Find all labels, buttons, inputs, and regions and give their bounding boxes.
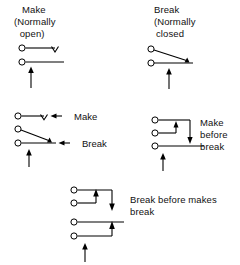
caption-make-normally-open-line3: open) bbox=[17, 28, 45, 40]
actuator-up-arrow bbox=[166, 68, 172, 89]
terminal-circle bbox=[71, 219, 77, 225]
terminal-circle bbox=[15, 126, 21, 132]
caption-make-before-break-line2: before bbox=[200, 129, 228, 141]
make-arrow-long bbox=[187, 120, 192, 144]
callout-arrow-break bbox=[59, 141, 71, 146]
terminal-circle bbox=[19, 59, 25, 65]
contact-arrow-up-1 bbox=[93, 189, 99, 203]
open-contact-v-marker bbox=[41, 115, 48, 120]
break-arrow-short bbox=[174, 121, 179, 133]
caption-break-before-makes-break-line2: break bbox=[130, 206, 154, 218]
caption-make-before-break-line1: Make bbox=[200, 117, 224, 129]
actuator-up-arrow bbox=[28, 67, 34, 89]
callout-arrow-make bbox=[51, 114, 63, 119]
inline-label-make: Make bbox=[74, 111, 97, 122]
actuator-up-arrow bbox=[82, 243, 88, 262]
symbol-break-normally-closed bbox=[140, 40, 240, 90]
contact-arm-diagonal bbox=[21, 130, 50, 141]
contact-arrow-up-2 bbox=[109, 221, 115, 236]
caption-break-normally-closed: Break bbox=[154, 4, 179, 16]
caption-make-before-break-line3: break bbox=[200, 141, 224, 153]
contact-arrow-down-1 bbox=[109, 190, 115, 211]
inline-label-break: Break bbox=[82, 138, 107, 149]
terminal-circle bbox=[71, 200, 77, 206]
terminal-circle bbox=[152, 130, 158, 136]
terminal-circle bbox=[19, 45, 25, 51]
actuator-up-arrow bbox=[26, 149, 32, 167]
caption-make-normally-open: Make bbox=[22, 4, 46, 16]
terminal-circle bbox=[15, 140, 21, 146]
terminal-circle bbox=[15, 113, 21, 119]
terminal-circle bbox=[148, 46, 154, 52]
contact-arm-diagonal bbox=[154, 50, 188, 61]
switch-contact-symbols-diagram: Make (Normally open) Break (Normally clo… bbox=[0, 0, 240, 265]
terminal-circle bbox=[71, 233, 77, 239]
open-contact-v-marker bbox=[52, 47, 59, 53]
terminal-circle bbox=[152, 117, 158, 123]
caption-break-before-makes-break-line1: Break before makes bbox=[130, 194, 217, 206]
symbol-make-normally-open bbox=[0, 40, 120, 90]
caption-break-normally-closed-line2: (Normally bbox=[154, 16, 196, 28]
caption-break-normally-closed-line3: closed bbox=[156, 28, 184, 40]
terminal-circle bbox=[148, 60, 154, 66]
actuator-up-arrow bbox=[160, 153, 166, 171]
terminal-circle bbox=[71, 187, 77, 193]
symbol-make-before-break bbox=[146, 112, 240, 172]
caption-make-normally-open-line2: (Normally bbox=[14, 16, 56, 28]
terminal-circle bbox=[152, 143, 158, 149]
